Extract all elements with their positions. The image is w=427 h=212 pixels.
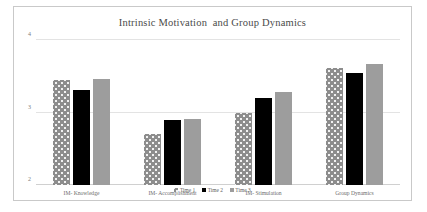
legend-label: Time 2	[208, 187, 223, 193]
bar[interactable]	[275, 92, 292, 185]
bar[interactable]	[326, 68, 343, 185]
bar[interactable]	[346, 73, 363, 185]
bar[interactable]	[73, 90, 90, 185]
bar[interactable]	[164, 120, 181, 185]
bar[interactable]	[184, 119, 201, 185]
legend-item[interactable]: Time 3	[230, 187, 251, 193]
legend-swatch-icon	[230, 188, 234, 192]
bar[interactable]	[235, 113, 252, 185]
legend-swatch-icon	[202, 188, 206, 192]
bar-groups: IM- KnowledgeIM- AccomplishmentIM- Stimu…	[36, 36, 400, 185]
bar[interactable]	[366, 64, 383, 186]
y-axis-tick-label: 2	[28, 176, 31, 182]
legend-item[interactable]: Time 2	[202, 187, 223, 193]
legend-item[interactable]: Time 1	[174, 187, 195, 193]
chart-title: Intrinsic Motivation and Group Dynamics	[14, 17, 411, 28]
bar-group: IM- Accomplishment	[127, 36, 218, 185]
bar[interactable]	[53, 80, 70, 185]
bar[interactable]	[144, 134, 161, 185]
y-axis-tick-label: 3	[28, 104, 31, 110]
chart-legend: Time 1Time 2Time 3	[14, 187, 411, 193]
bar-group: Group Dynamics	[309, 36, 400, 185]
legend-label: Time 3	[235, 187, 250, 193]
legend-swatch-icon	[174, 188, 178, 192]
chart-container: Intrinsic Motivation and Group Dynamics …	[13, 6, 412, 201]
legend-label: Time 1	[180, 187, 195, 193]
plot-area: 234 IM- KnowledgeIM- AccomplishmentIM- S…	[36, 36, 400, 185]
bar[interactable]	[93, 79, 110, 185]
bar-group: IM- Stimulation	[218, 36, 309, 185]
bar[interactable]	[255, 98, 272, 185]
bar-group: IM- Knowledge	[36, 36, 127, 185]
y-axis-tick-label: 4	[28, 31, 31, 37]
